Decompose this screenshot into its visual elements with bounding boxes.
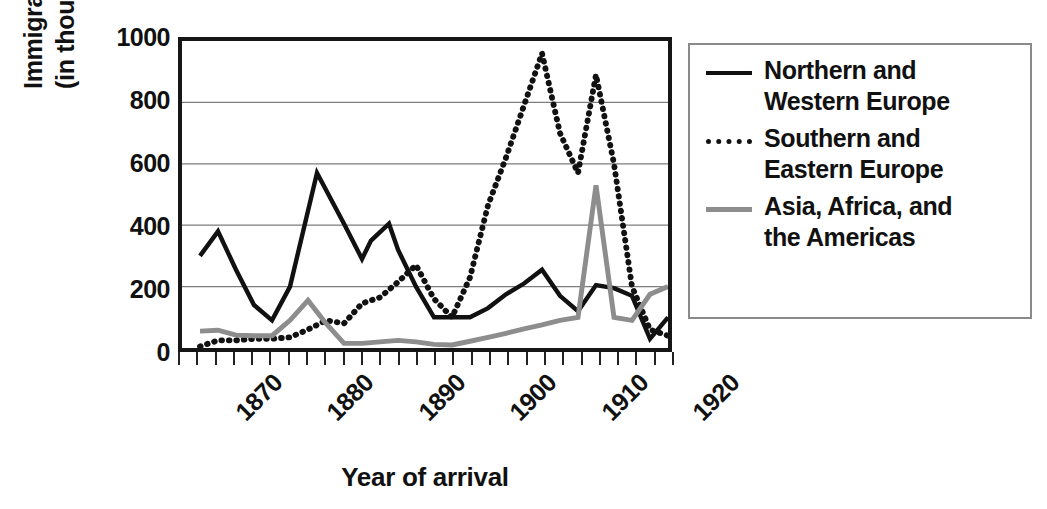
legend-swatch-solid-line-icon — [704, 55, 754, 89]
x-tick-mark — [581, 352, 583, 365]
y-axis-title-line-2: (in thousands) — [51, 0, 80, 89]
legend-swatch-gray-line-icon — [704, 191, 754, 225]
legend-item-3[interactable]: Asia, Africa, andthe Americas — [690, 191, 1030, 253]
x-tick-mark — [416, 352, 418, 365]
x-tick-mark — [434, 352, 436, 365]
x-tick-mark — [452, 352, 454, 365]
y-axis-title: Immigrants (in thousands) — [6, 60, 106, 340]
x-tick-mark — [489, 352, 491, 365]
x-tick-mark — [635, 352, 637, 365]
x-tick-label: 1870 — [230, 368, 288, 426]
x-axis-ticks — [178, 352, 672, 365]
y-tick-label: 600 — [96, 149, 170, 178]
x-tick-mark — [233, 352, 235, 365]
x-tick-mark — [251, 352, 253, 365]
x-tick-mark — [672, 352, 674, 365]
x-tick-mark — [526, 352, 528, 365]
y-tick-label: 0 — [96, 338, 170, 367]
y-tick-label: 1000 — [96, 23, 170, 52]
x-tick-mark — [599, 352, 601, 365]
legend-item-label: Asia, Africa, andthe Americas — [764, 191, 952, 253]
y-tick-label: 800 — [96, 86, 170, 115]
legend-item-2[interactable]: Southern andEastern Europe — [690, 123, 1030, 185]
x-tick-mark — [471, 352, 473, 365]
x-tick-mark — [178, 352, 180, 365]
x-tick-mark — [288, 352, 290, 365]
legend-item-label: Southern andEastern Europe — [764, 123, 943, 185]
x-tick-label: 1890 — [413, 368, 471, 426]
chart-page: Immigrants (in thousands) 02004006008001… — [0, 0, 1047, 509]
x-tick-mark — [617, 352, 619, 365]
legend: Northern andWestern EuropeSouthern andEa… — [688, 43, 1032, 319]
x-tick-mark — [361, 352, 363, 365]
x-tick-mark — [324, 352, 326, 365]
x-axis-tick-labels: 187018801890190019101920 — [178, 368, 698, 448]
x-tick-label: 1920 — [687, 368, 745, 426]
legend-swatch-dotted-line-icon — [704, 123, 754, 157]
x-tick-mark — [306, 352, 308, 365]
x-tick-label: 1910 — [596, 368, 654, 426]
y-axis-tick-labels: 02004006008001000 — [96, 0, 170, 509]
legend-item-label: Northern andWestern Europe — [764, 55, 950, 117]
x-tick-mark — [544, 352, 546, 365]
x-tick-mark — [654, 352, 656, 365]
x-tick-mark — [398, 352, 400, 365]
legend-item-1[interactable]: Northern andWestern Europe — [690, 55, 1030, 117]
x-tick-mark — [379, 352, 381, 365]
x-tick-mark — [562, 352, 564, 365]
y-axis-title-line-1: Immigrants — [19, 0, 48, 89]
x-tick-mark — [215, 352, 217, 365]
x-axis-title: Year of arrival — [178, 462, 672, 493]
plot-area — [178, 37, 672, 352]
x-tick-label: 1900 — [504, 368, 562, 426]
y-tick-label: 200 — [96, 275, 170, 304]
x-tick-mark — [196, 352, 198, 365]
x-tick-mark — [269, 352, 271, 365]
x-tick-mark — [507, 352, 509, 365]
plot-svg — [182, 41, 668, 348]
x-tick-label: 1880 — [321, 368, 379, 426]
x-tick-mark — [343, 352, 345, 365]
y-tick-label: 400 — [96, 212, 170, 241]
